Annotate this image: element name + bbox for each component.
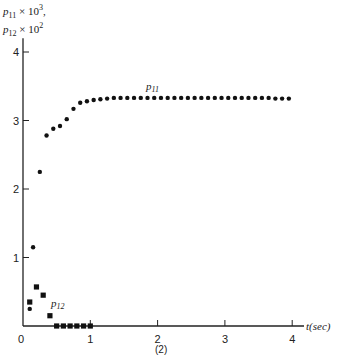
p11-point [71,107,75,111]
p11-point [85,99,89,103]
p11-point [280,96,284,100]
x-axis-label: t(sec) [306,320,331,333]
p11-point [91,98,95,102]
p12-point [61,323,66,328]
p11-point [266,96,270,100]
x-tick-label: 0 [18,333,24,345]
p11-point [165,96,169,100]
p11-point [105,96,109,100]
y-tick-label: 1 [13,252,19,264]
p11-point [233,96,237,100]
p11-point [51,127,55,131]
p12-point [41,293,46,298]
p12-point [68,323,73,328]
p12-point [54,323,59,328]
p12-point [27,299,32,304]
p11-point [139,96,143,100]
p11-point [219,96,223,100]
p11-point [179,96,183,100]
scatter-plot: 012341234 p11p12 t(sec) [0,0,340,363]
data-points: p11p12 [27,80,291,329]
p11-point [125,96,129,100]
p11-point [260,96,264,100]
p11-point [240,96,244,100]
p11-annotation: p11 [145,80,159,94]
p11-point [58,124,62,128]
p11-point [253,96,257,100]
p11-point [152,96,156,100]
p11-point [172,96,176,100]
p11-point [44,133,48,137]
p11-point [112,96,116,100]
y-tick-label: 2 [13,183,19,195]
p11-point [31,245,35,249]
p11-point [159,96,163,100]
p12-point [88,323,93,328]
x-tick-label: 1 [87,333,93,345]
y-tick-label: 3 [13,115,19,127]
y-tick-label: 4 [13,46,19,58]
x-tick-label: 4 [289,333,295,345]
p11-point [273,96,277,100]
p11-point [132,96,136,100]
x-tick-label: 3 [222,333,228,345]
p11-point [65,117,69,121]
p11-point [28,307,32,311]
p11-point [78,100,82,104]
p11-point [145,96,149,100]
p11-point [118,96,122,100]
p12-point [34,284,39,289]
p11-point [287,96,291,100]
figure-caption: (2) [155,344,167,355]
p12-annotation: p12 [50,297,65,311]
p11-point [206,96,210,100]
p11-point [186,96,190,100]
p11-point [199,96,203,100]
p11-point [38,170,42,174]
p11-point [246,96,250,100]
p11-point [226,96,230,100]
p11-point [192,96,196,100]
p11-point [213,96,217,100]
p12-point [81,323,86,328]
p12-point [74,323,79,328]
p11-point [98,97,102,101]
p12-point [47,313,52,318]
